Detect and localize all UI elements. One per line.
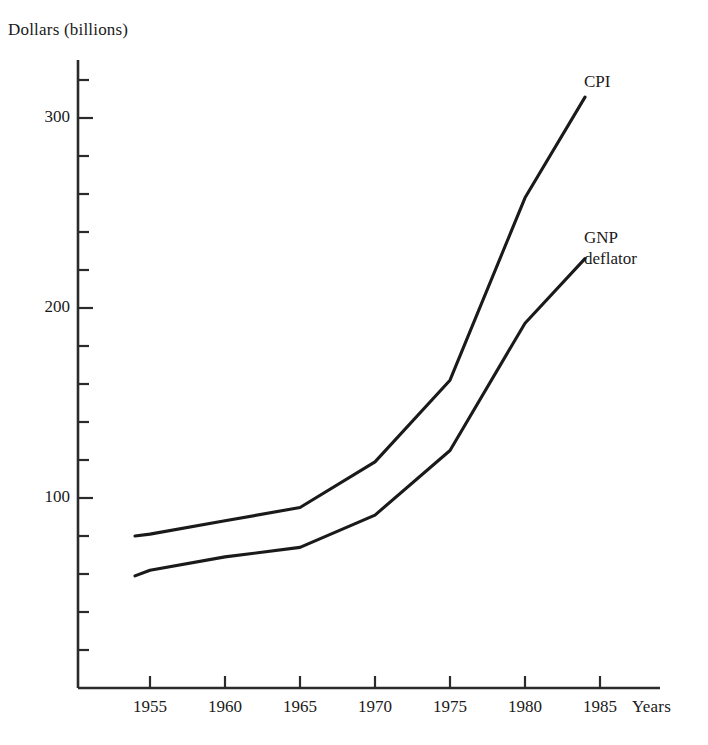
x-tick-marks bbox=[150, 676, 600, 688]
y-tick-marks bbox=[78, 80, 93, 650]
data-lines-group bbox=[135, 97, 585, 576]
data-line-cpi bbox=[135, 97, 585, 536]
line-chart-figure: Dollars (billions) Years 300 200 100 195… bbox=[0, 0, 708, 745]
axes-group bbox=[78, 60, 660, 688]
plot-area bbox=[0, 0, 708, 745]
data-line-gnp-deflator bbox=[135, 259, 585, 576]
